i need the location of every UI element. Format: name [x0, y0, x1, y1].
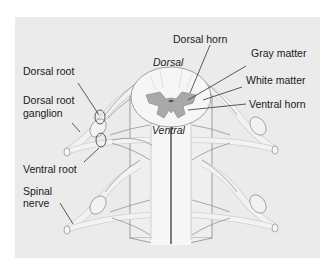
- label-dorsal-root: Dorsal root: [23, 65, 74, 77]
- label-spinal-nerve: Spinal: [23, 185, 52, 197]
- ventral-orientation-label: Ventral: [152, 124, 185, 136]
- label-gray-matter: Gray matter: [251, 47, 306, 59]
- label-spinal-nerve-line2: nerve: [23, 197, 49, 209]
- label-dorsal-horn: Dorsal horn: [173, 33, 227, 45]
- label-dorsal-root-ganglion: Dorsal root: [23, 94, 74, 106]
- label-ventral-horn: Ventral horn: [249, 98, 306, 110]
- cross-section: [131, 67, 211, 127]
- label-dorsal-root-ganglion-line2: ganglion: [23, 107, 63, 119]
- label-ventral-root: Ventral root: [23, 163, 77, 175]
- label-white-matter: White matter: [246, 74, 306, 86]
- dorsal-orientation-label: Dorsal: [153, 56, 183, 68]
